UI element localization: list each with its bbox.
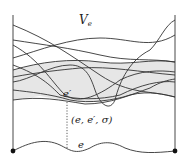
edge-prime-label: e′ [63, 88, 72, 99]
edge-label: e [78, 139, 84, 150]
curve-3 [13, 35, 175, 58]
diagram: Ve e′ (e, e′, σ) e [0, 0, 188, 165]
curve-2 [13, 40, 175, 62]
title-label: Ve [79, 13, 92, 28]
triple-label: (e, e′, σ) [71, 114, 113, 125]
left-vertex [11, 149, 16, 154]
right-vertex [173, 149, 178, 154]
edge-curve [13, 141, 175, 152]
